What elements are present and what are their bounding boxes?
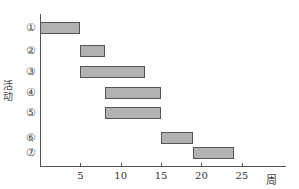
- x-tick-label: 20: [191, 170, 211, 181]
- x-tick: [201, 163, 202, 166]
- x-tick: [80, 163, 81, 166]
- x-tick-label: 25: [232, 170, 252, 181]
- gantt-chart: ①②③④⑤⑥⑦ 510152025 活动 周: [0, 0, 299, 189]
- x-axis: [40, 166, 286, 167]
- task-bar: [193, 147, 233, 159]
- x-tick-label: 5: [70, 170, 90, 181]
- x-tick: [121, 163, 122, 166]
- x-tick: [242, 163, 243, 166]
- task-bar: [161, 132, 193, 144]
- row-label: ②: [24, 45, 38, 57]
- x-tick-label: 15: [151, 170, 171, 181]
- row-label: ④: [24, 87, 38, 99]
- row-label: ⑦: [24, 147, 38, 159]
- y-axis-label: 活动: [2, 80, 13, 102]
- task-bar: [80, 45, 104, 57]
- y-axis: [40, 14, 41, 167]
- row-label: ⑤: [24, 107, 38, 119]
- task-bar: [105, 87, 161, 99]
- x-tick-label: 10: [111, 170, 131, 181]
- row-label: ③: [24, 66, 38, 78]
- row-label: ①: [24, 22, 38, 34]
- x-axis-label: 周: [266, 171, 277, 187]
- row-label: ⑥: [24, 132, 38, 144]
- task-bar: [105, 107, 161, 119]
- task-bar: [40, 22, 80, 34]
- task-bar: [80, 66, 145, 78]
- x-tick: [161, 163, 162, 166]
